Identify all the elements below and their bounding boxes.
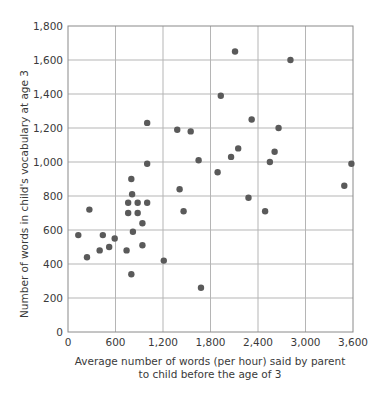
- scatter-chart: 02004006008001,0001,2001,4001,6001,800 0…: [0, 0, 388, 396]
- y-tick-label: 1,000: [33, 156, 63, 168]
- y-axis-label: Number of words in child's vocabulary at…: [18, 70, 30, 318]
- data-point: [128, 176, 134, 182]
- data-point: [106, 244, 112, 250]
- y-tick-label: 0: [56, 326, 63, 338]
- y-tick-label: 1,400: [33, 88, 63, 100]
- data-point: [100, 232, 106, 238]
- data-point: [144, 161, 150, 167]
- data-point: [267, 159, 273, 165]
- data-point: [134, 200, 140, 206]
- x-tick-label: 3,000: [290, 336, 320, 348]
- data-point: [125, 210, 131, 216]
- data-point: [195, 157, 201, 163]
- y-tick-label: 400: [43, 258, 63, 270]
- data-point: [129, 191, 135, 197]
- data-point: [232, 48, 238, 54]
- x-axis-label-line-2: to child before the age of 3: [139, 368, 282, 380]
- data-point: [248, 116, 254, 122]
- data-point: [262, 208, 268, 214]
- data-point: [245, 195, 251, 201]
- data-point: [174, 127, 180, 133]
- data-point: [75, 232, 81, 238]
- y-tick-label: 600: [43, 224, 63, 236]
- y-tick-label: 800: [43, 190, 63, 202]
- data-point: [341, 183, 347, 189]
- y-tick-label: 200: [43, 292, 63, 304]
- data-point: [198, 285, 204, 291]
- data-point: [275, 125, 281, 131]
- data-point: [271, 149, 277, 155]
- data-point: [134, 210, 140, 216]
- data-point: [130, 229, 136, 235]
- data-point: [125, 200, 131, 206]
- x-tick-label: 0: [65, 336, 72, 348]
- y-tick-label: 1,200: [33, 122, 63, 134]
- data-point: [180, 208, 186, 214]
- data-point: [161, 257, 167, 263]
- data-points: [75, 48, 355, 291]
- x-tick-label: 1,800: [195, 336, 225, 348]
- data-point: [188, 128, 194, 134]
- data-point: [287, 57, 293, 63]
- data-point: [214, 169, 220, 175]
- y-tick-label: 1,800: [33, 20, 63, 32]
- data-point: [139, 242, 145, 248]
- x-tick-label: 2,400: [243, 336, 273, 348]
- x-axis-ticks: 06001,2001,8002,4003,0003,600: [65, 336, 368, 348]
- x-tick-label: 1,200: [148, 336, 178, 348]
- x-axis-label-line-1: Average number of words (per hour) said …: [75, 355, 346, 367]
- data-point: [128, 271, 134, 277]
- x-tick-label: 3,600: [338, 336, 368, 348]
- data-point: [235, 145, 241, 151]
- data-point: [144, 120, 150, 126]
- y-axis-ticks: 02004006008001,0001,2001,4001,6001,800: [33, 20, 63, 338]
- data-point: [139, 220, 145, 226]
- gridlines: [68, 26, 353, 332]
- data-point: [86, 206, 92, 212]
- data-point: [96, 247, 102, 253]
- y-tick-label: 1,600: [33, 54, 63, 66]
- data-point: [218, 93, 224, 99]
- data-point: [228, 154, 234, 160]
- data-point: [123, 247, 129, 253]
- data-point: [84, 254, 90, 260]
- data-point: [348, 161, 354, 167]
- data-point: [112, 235, 118, 241]
- data-point: [176, 186, 182, 192]
- x-tick-label: 600: [105, 336, 125, 348]
- data-point: [144, 200, 150, 206]
